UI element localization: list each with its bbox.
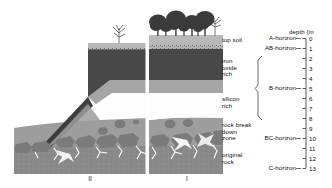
silicon-rich-layer-I (149, 93, 223, 120)
profile-II-body (14, 43, 147, 174)
depth-tick-13: 13 (309, 166, 316, 172)
top-soil-speckle-I (149, 45, 223, 49)
soil-profile-illustration (0, 0, 332, 188)
depth-tick-9: 9 (309, 126, 312, 132)
horizon-label-bc: BC-horizon (265, 135, 296, 142)
depth-tick-7: 7 (309, 106, 312, 112)
depth-tick-10: 10 (309, 136, 316, 142)
column-divider (146, 34, 150, 174)
layer-label-iron-oxide-rich: iron oxide rich (222, 58, 237, 78)
depth-tick-0: 0 (309, 36, 312, 42)
soil-profile-figure: top soil iron oxide rich silicon rich ro… (0, 0, 332, 188)
depth-tick-3: 3 (309, 66, 312, 72)
top-soil-speckle-II (88, 47, 147, 49)
iron-oxide-lower-band-I (149, 80, 223, 93)
layer-label-rock-break-down-zone: rock break down zone (222, 122, 251, 142)
horizon-leaders (296, 39, 301, 169)
b-horizon-bracket (255, 56, 262, 120)
depth-tick-12: 12 (309, 156, 316, 162)
depth-tick-5: 5 (309, 86, 312, 92)
depth-tick-11: 11 (309, 146, 315, 152)
depth-tick-8: 8 (309, 116, 312, 122)
depth-tick-1: 1 (309, 46, 312, 52)
profile-name-I: I (177, 176, 197, 182)
horizon-label-b: B-horizon (269, 85, 296, 92)
horizon-label-c: C-horizon (269, 165, 296, 172)
iron-oxide-rich-layer-I (149, 48, 223, 80)
horizon-label-a: A-horizon (269, 35, 296, 42)
profile-I-body (149, 35, 223, 174)
depth-axis (303, 39, 307, 169)
depth-tick-4: 4 (309, 76, 312, 82)
tree-on-plateau-II (113, 25, 125, 43)
layer-label-top-soil: top soil (222, 37, 242, 44)
depth-tick-2: 2 (309, 56, 312, 62)
profile-name-II: II (80, 176, 100, 182)
horizon-label-ab: AB-horizon (265, 45, 296, 52)
depth-tick-6: 6 (309, 96, 312, 102)
layer-label-original-rock: original rock (222, 152, 242, 165)
forest-canopy-I (149, 11, 215, 37)
layer-label-silicon-rich: silicon rich (222, 96, 240, 109)
